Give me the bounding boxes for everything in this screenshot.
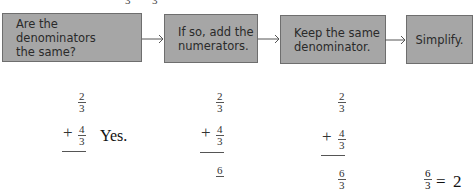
example-2-addend-1: 2 3 — [216, 91, 224, 114]
example-1-addend-1: 2 3 — [78, 91, 86, 114]
flow-step-1-line-2: the same? — [16, 45, 141, 59]
example-3-sum: 6 3 — [338, 168, 346, 191]
example-2-plus: + — [201, 123, 211, 143]
example-3-addend-2: 4 3 — [338, 128, 346, 151]
arrow-right-icon — [142, 34, 165, 44]
example-4-result: 2 — [453, 172, 462, 192]
flow-step-4: Simplify. — [406, 15, 473, 64]
example-1-sum-line — [62, 151, 86, 152]
flow-step-2-line-1: If so, add the — [178, 25, 254, 39]
example-3-sum-line — [321, 155, 345, 156]
flow-step-2-line-2: numerators. — [178, 39, 254, 53]
flow-step-1-line-1: Are the denominators — [16, 17, 141, 45]
cutoff-digit: 3 — [125, 0, 131, 6]
example-2-addend-2: 4 3 — [216, 124, 224, 147]
flow-step-4-line-1: Simplify. — [415, 33, 463, 47]
arrow-right-icon — [385, 35, 407, 45]
flow-step-2: If so, add the numerators. — [164, 14, 258, 63]
example-1-plus: + — [63, 123, 73, 143]
example-4-fraction: 6 3 — [424, 168, 432, 191]
flow-step-1: Are the denominators the same? — [2, 13, 142, 62]
example-3-addend-1: 2 3 — [338, 91, 346, 114]
flow-step-3-line-2: denominator. — [294, 40, 380, 54]
flow-step-3: Keep the same denominator. — [280, 15, 386, 64]
example-2-sum-numerator: 6 — [216, 165, 224, 177]
cutoff-digit: 3 — [152, 0, 158, 6]
example-3-plus: + — [322, 127, 332, 147]
arrow-right-icon — [258, 34, 281, 44]
flow-step-3-line-1: Keep the same — [294, 26, 380, 40]
example-4-equals: = — [436, 172, 446, 192]
example-1-addend-2: 4 3 — [78, 124, 86, 147]
example-1-answer: Yes. — [100, 127, 127, 145]
example-2-sum-line — [200, 152, 224, 153]
